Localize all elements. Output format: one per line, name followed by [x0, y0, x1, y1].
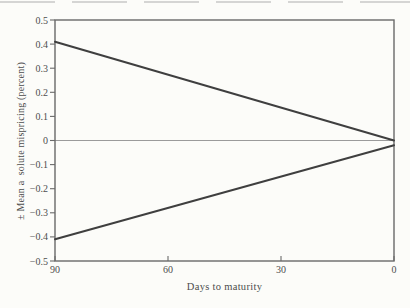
- x-tick-label: 60: [163, 264, 173, 275]
- x-tick-label: 90: [50, 264, 60, 275]
- x-tick-label: 0: [392, 264, 397, 275]
- y-tick-label: 0.3: [36, 63, 49, 74]
- y-tick-label: 0.1: [36, 111, 49, 122]
- chart-figure: ± Mean a solute mispricing (percent) Day…: [0, 0, 410, 308]
- y-tick-label: 0: [43, 135, 48, 146]
- y-tick-label: 0.4: [36, 39, 49, 50]
- data-line-1: [55, 145, 394, 239]
- y-tick-label: −0.2: [30, 183, 48, 194]
- y-tick-label: −0.5: [30, 256, 48, 267]
- y-tick-label: −0.1: [30, 159, 48, 170]
- x-tick-label: 30: [276, 264, 286, 275]
- plot-area: 0.50.40.30.20.10−0.1−0.2−0.3−0.4−0.59060…: [0, 0, 410, 308]
- y-tick-label: −0.4: [30, 231, 48, 242]
- data-line-0: [55, 42, 394, 141]
- y-tick-label: 0.2: [36, 87, 49, 98]
- y-tick-label: 0.5: [36, 15, 49, 26]
- y-tick-label: −0.3: [30, 207, 48, 218]
